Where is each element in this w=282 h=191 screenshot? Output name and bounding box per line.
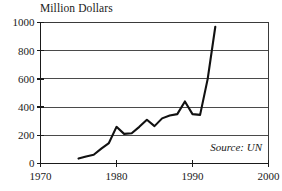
x-tick-label-1990: 1990 xyxy=(182,170,205,182)
y-axis-ticks: 02004006008001000 xyxy=(13,16,45,169)
x-tick-label-1970: 1970 xyxy=(30,170,53,182)
gridlines-group xyxy=(41,23,269,136)
y-tick-label-600: 600 xyxy=(18,73,35,85)
y-tick-label-0: 0 xyxy=(29,157,35,169)
source-annotation: Source: UN xyxy=(210,141,262,153)
y-tick-label-800: 800 xyxy=(18,45,35,57)
y-tick-label-400: 400 xyxy=(18,101,35,113)
chart-plot-area: 02004006008001000 1970198019902000 Sourc… xyxy=(0,0,282,191)
y-tick-label-200: 200 xyxy=(18,129,35,141)
chart-container: Million Dollars 02004006008001000 197019… xyxy=(0,0,282,191)
y-tick-label-1000: 1000 xyxy=(13,16,36,28)
x-tick-label-2000: 2000 xyxy=(258,170,281,182)
x-tick-label-1980: 1980 xyxy=(106,170,129,182)
data-series-line xyxy=(79,27,216,159)
series-value xyxy=(79,27,216,159)
